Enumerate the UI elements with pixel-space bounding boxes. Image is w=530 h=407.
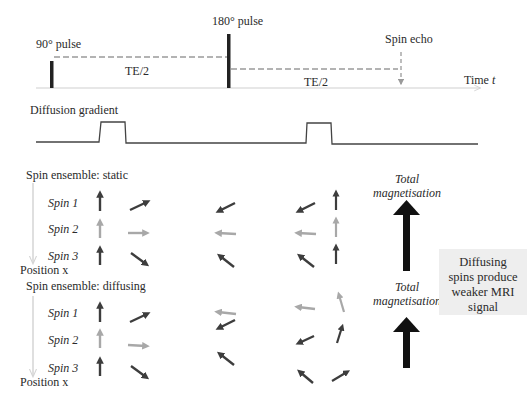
static-total-label: Total magnetisation bbox=[370, 172, 444, 200]
diffusion-gradient-label: Diffusion gradient bbox=[30, 103, 118, 117]
pulse-180-label: 180° pulse bbox=[212, 14, 263, 28]
time-axis-variable: t bbox=[492, 73, 495, 87]
arrow-diff-s3-c5 bbox=[332, 372, 347, 381]
time-axis-label: Time t bbox=[464, 73, 495, 87]
diagram-canvas bbox=[0, 0, 530, 407]
static-total-label-line1: Total bbox=[370, 172, 444, 186]
arrow-diff-s1-c4 bbox=[299, 336, 314, 343]
te-half-1-label: TE/2 bbox=[125, 64, 149, 78]
static-spin-3-label: Spin 3 bbox=[48, 249, 78, 263]
static-spin-arrows bbox=[100, 193, 336, 267]
arrow-diff-s1-c2 bbox=[130, 314, 147, 322]
static-ensemble-title: Spin ensemble: static bbox=[26, 168, 128, 182]
pulse-180-bar bbox=[227, 34, 231, 88]
spin-echo-label: Spin echo bbox=[385, 32, 433, 46]
arrow-static-s1-c4 bbox=[299, 203, 315, 211]
total-magnetisation-arrow-diffusing bbox=[393, 317, 420, 368]
diffusing-ensemble-title: Spin ensemble: diffusing bbox=[26, 279, 146, 293]
diffusing-total-label-line2: magnetisation bbox=[370, 294, 444, 308]
arrow-static-s3-c2 bbox=[131, 253, 146, 264]
conclusion-line2: spins produce bbox=[443, 270, 523, 285]
arrow-static-s2-c4 bbox=[298, 233, 316, 234]
total-magnetisation-arrow-static bbox=[393, 200, 420, 271]
diffusing-spin-arrows bbox=[100, 295, 347, 383]
static-spin-1-label: Spin 1 bbox=[48, 196, 78, 210]
arrow-static-s2-c3 bbox=[218, 233, 236, 234]
static-total-label-line2: magnetisation bbox=[370, 186, 444, 200]
arrow-diff-s1-c5 bbox=[337, 327, 342, 343]
static-spin-2-label: Spin 2 bbox=[48, 222, 78, 236]
arrow-static-s1-c2 bbox=[130, 202, 147, 210]
arrow-static-s1-c3 bbox=[219, 203, 235, 211]
arrow-static-s3-c4 bbox=[300, 256, 314, 267]
arrow-diff-s2-c3 bbox=[218, 312, 236, 314]
conclusion-line4: signal bbox=[443, 300, 523, 315]
pulse-90-label: 90° pulse bbox=[36, 37, 81, 51]
gradient-waveform bbox=[36, 122, 478, 144]
diffusing-total-label: Total magnetisation bbox=[370, 280, 444, 308]
conclusion-line3: weaker MRI bbox=[443, 285, 523, 300]
arrow-diff-s2-c5 bbox=[339, 295, 344, 312]
time-axis-text: Time bbox=[464, 73, 489, 87]
arrow-diff-s3-c4 bbox=[300, 372, 313, 383]
pulse-90-bar bbox=[50, 61, 54, 88]
arrow-diff-s3-c2 bbox=[131, 366, 146, 377]
arrow-diff-s2-c2 bbox=[128, 345, 146, 346]
diffusing-spin-1-label: Spin 1 bbox=[48, 306, 78, 320]
arrow-diff-s2-c4 bbox=[298, 307, 315, 309]
arrow-diff-s1-c3 bbox=[219, 320, 235, 328]
te-half-2-label: TE/2 bbox=[304, 75, 328, 89]
diffusing-position-label: Position x bbox=[20, 375, 68, 389]
conclusion-line1: Diffusing bbox=[443, 255, 523, 270]
arrow-static-s3-c3 bbox=[220, 256, 234, 267]
diffusing-spin-3-label: Spin 3 bbox=[48, 361, 78, 375]
static-position-label: Position x bbox=[20, 263, 68, 277]
arrow-diff-s3-c3 bbox=[220, 354, 234, 365]
conclusion-box: Diffusing spins produce weaker MRI signa… bbox=[439, 249, 527, 315]
diffusing-total-label-line1: Total bbox=[370, 280, 444, 294]
diffusing-spin-2-label: Spin 2 bbox=[48, 333, 78, 347]
